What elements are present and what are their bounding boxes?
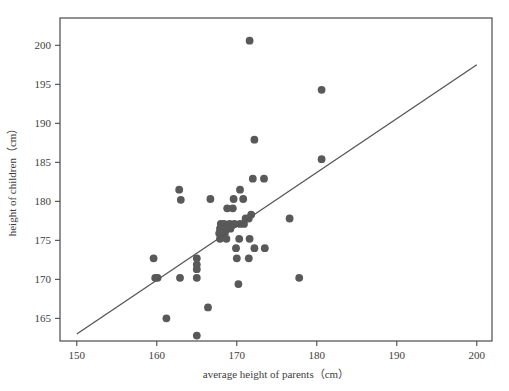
x-axis-title: average height of parents（cm） (203, 368, 349, 380)
y-axis-title: height of children（cm） (6, 123, 18, 237)
y-tick-label: 165 (35, 312, 52, 324)
data-point (246, 37, 254, 45)
data-point (295, 274, 303, 282)
data-point (261, 244, 269, 252)
data-point (232, 244, 240, 252)
y-tick-label: 195 (35, 78, 52, 90)
x-tick-label: 150 (69, 349, 86, 361)
data-point (251, 136, 259, 144)
data-point (233, 254, 241, 262)
data-point (193, 274, 201, 282)
x-tick-label: 180 (309, 349, 326, 361)
plot-svg: 1501601701801902001651701751801851901952… (0, 0, 509, 391)
scatter-chart-figure: 1501601701801902001651701751801851901952… (0, 0, 509, 391)
data-point (235, 235, 243, 243)
data-point (230, 195, 238, 203)
data-point (246, 235, 254, 243)
x-tick-label: 200 (469, 349, 486, 361)
data-layer: 1501601701801902001651701751801851901952… (6, 18, 492, 380)
data-point (163, 314, 171, 322)
data-point (235, 280, 243, 288)
x-tick-label: 160 (149, 349, 166, 361)
y-tick-label: 170 (35, 273, 52, 285)
data-point (245, 254, 253, 262)
data-point (193, 332, 201, 340)
data-point (251, 244, 259, 252)
data-point (175, 186, 183, 194)
data-point (177, 196, 185, 204)
data-point (236, 186, 244, 194)
x-tick-label: 190 (389, 349, 406, 361)
y-tick-label: 190 (35, 117, 52, 129)
x-tick-label: 170 (229, 349, 246, 361)
data-point (260, 175, 268, 183)
data-point (207, 195, 215, 203)
regression-line (77, 65, 477, 334)
data-point (286, 215, 294, 223)
data-point (239, 195, 247, 203)
y-tick-label: 185 (35, 156, 52, 168)
data-point (249, 175, 257, 183)
data-point (193, 265, 201, 273)
data-point (176, 274, 184, 282)
data-point (223, 235, 231, 243)
data-point (150, 254, 158, 262)
data-point (318, 155, 326, 163)
y-tick-label: 180 (35, 195, 52, 207)
y-tick-label: 175 (35, 234, 52, 246)
data-point (229, 204, 237, 212)
y-tick-label: 200 (35, 39, 52, 51)
plot-frame (60, 18, 492, 341)
data-point (204, 304, 212, 312)
data-point (318, 86, 326, 94)
